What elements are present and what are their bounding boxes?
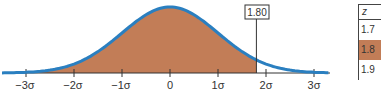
tick-label-neg3: −3σ — [15, 79, 35, 91]
tick-label-3: 3σ — [308, 79, 321, 91]
z-table-row: 1.9 — [359, 60, 381, 80]
tick-label-0: 0 — [167, 79, 173, 91]
tick-label-1: 1σ — [212, 79, 225, 91]
marker-label: 1.80 — [247, 7, 267, 18]
shaded-area — [2, 7, 256, 73]
tick-label-neg1: −1σ — [111, 79, 131, 91]
z-table: z 1.7 1.8 1.9 — [358, 4, 381, 80]
z-table-row: 1.7 — [359, 20, 381, 40]
z-table-header: z — [359, 4, 381, 20]
tick-label-2: 2σ — [260, 79, 273, 91]
tick-label-neg2: −2σ — [63, 79, 83, 91]
z-table-row-highlighted: 1.8 — [359, 40, 381, 60]
